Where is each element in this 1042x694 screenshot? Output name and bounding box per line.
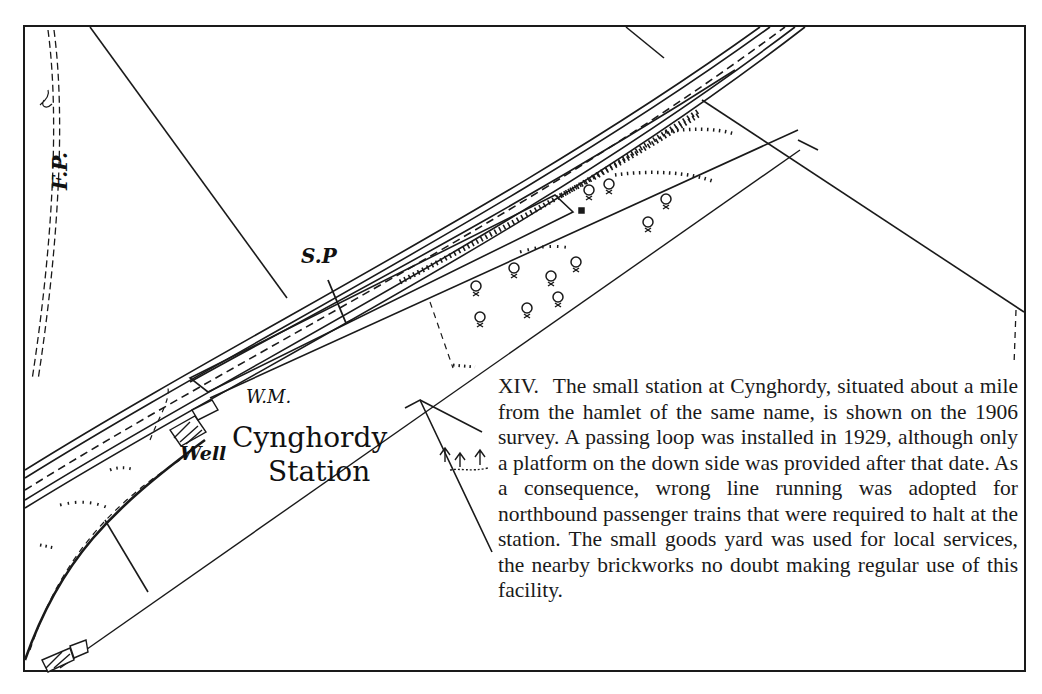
caption-text: The small station at Cynghordy, situated… [498, 374, 1018, 602]
signal-post-label: S.P [301, 246, 337, 266]
weighing-machine-label: W.M. [246, 388, 291, 406]
footpath-lines [32, 30, 60, 380]
caption-number: XIV. [498, 374, 539, 398]
map-caption: XIV.The small station at Cynghordy, situ… [498, 374, 1018, 604]
well-label: Well [180, 444, 226, 463]
station-name-label: Cynghordy [232, 424, 387, 452]
buildings [42, 400, 218, 672]
station-subtitle-label: Station [268, 458, 370, 486]
footpath-label: F.P. [50, 152, 70, 190]
